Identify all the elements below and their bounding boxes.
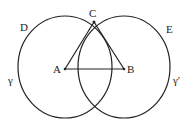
label-b: B bbox=[127, 63, 134, 75]
diagram-canvas: C A B D E γ γ′ bbox=[0, 0, 194, 128]
segment-ac bbox=[65, 22, 94, 69]
label-c: C bbox=[89, 7, 96, 19]
point-b bbox=[123, 68, 126, 71]
label-e: E bbox=[166, 23, 173, 35]
diagram: C A B D E γ γ′ bbox=[0, 0, 194, 128]
circle-gamma-prime bbox=[78, 16, 170, 118]
circle-gamma bbox=[18, 16, 112, 118]
segment-bc bbox=[94, 22, 124, 69]
label-a: A bbox=[53, 63, 61, 75]
point-c bbox=[93, 21, 96, 24]
point-a bbox=[64, 68, 67, 71]
label-gamma-prime: γ′ bbox=[172, 74, 180, 86]
label-gamma: γ bbox=[7, 74, 13, 86]
label-d: D bbox=[20, 21, 28, 33]
